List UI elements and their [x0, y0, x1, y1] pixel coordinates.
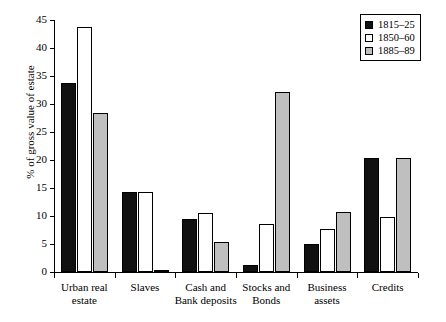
y-axis-tick-label: 20: [36, 152, 47, 167]
bar: [77, 27, 92, 272]
x-axis-tick-mark: [297, 273, 298, 278]
bar: [259, 224, 274, 272]
bar-group: [122, 20, 169, 272]
y-axis-tick-label: 25: [36, 124, 47, 139]
x-axis-category-label-line: Credits: [349, 281, 426, 294]
bar: [154, 270, 169, 272]
x-axis-tick-mark: [175, 273, 176, 278]
bar-group: [182, 20, 229, 272]
legend-label: 1850–60: [378, 32, 415, 43]
x-axis-tick-mark: [54, 273, 55, 278]
bar: [320, 229, 335, 272]
legend-label: 1815–25: [378, 19, 415, 30]
y-axis-tick-label: 5: [42, 236, 48, 251]
x-axis-tick-mark: [115, 273, 116, 278]
legend-swatch-icon: [365, 34, 373, 42]
bar: [364, 158, 379, 272]
legend-swatch-icon: [365, 21, 373, 29]
legend-row: 1850–60: [365, 31, 415, 44]
y-axis-tick-label: 40: [36, 40, 47, 55]
y-axis-tick-label: 35: [36, 68, 47, 83]
x-axis-category-label-line: estate: [46, 294, 123, 307]
y-axis-tick-label: 45: [36, 12, 47, 27]
legend-row: 1815–25: [365, 18, 415, 31]
y-axis-tick-label: 0: [42, 264, 48, 279]
y-axis-tick-label: 15: [36, 180, 47, 195]
x-axis-tick-mark: [236, 273, 237, 278]
legend-label: 1885–89: [378, 45, 415, 56]
x-axis-tick-mark: [418, 273, 419, 278]
bar: [61, 83, 76, 272]
bar-group: [304, 20, 351, 272]
x-axis-tick-mark: [357, 273, 358, 278]
x-axis-category-label: Credits: [349, 281, 426, 294]
bar: [138, 192, 153, 272]
bar: [380, 217, 395, 272]
bar-group: [243, 20, 290, 272]
legend-row: 1885–89: [365, 44, 415, 57]
bar: [122, 192, 137, 272]
bar: [336, 212, 351, 272]
y-axis-tick-label: 10: [36, 208, 47, 223]
x-axis-category-label-line: assets: [289, 294, 366, 307]
bar: [214, 242, 229, 272]
y-axis-title: % of gross value of estate: [24, 22, 36, 222]
legend-swatch-icon: [365, 47, 373, 55]
bar-group: [61, 20, 108, 272]
bar: [198, 213, 213, 272]
bar: [396, 158, 411, 272]
bar-chart-figure: % of gross value of estate 0510152025303…: [0, 0, 446, 322]
y-axis-tick-label: 30: [36, 96, 47, 111]
bar: [182, 219, 197, 272]
bar: [243, 265, 258, 272]
bar: [304, 244, 319, 272]
bar: [275, 92, 290, 272]
bar: [93, 113, 108, 272]
legend: 1815–251850–601885–89: [360, 14, 421, 61]
